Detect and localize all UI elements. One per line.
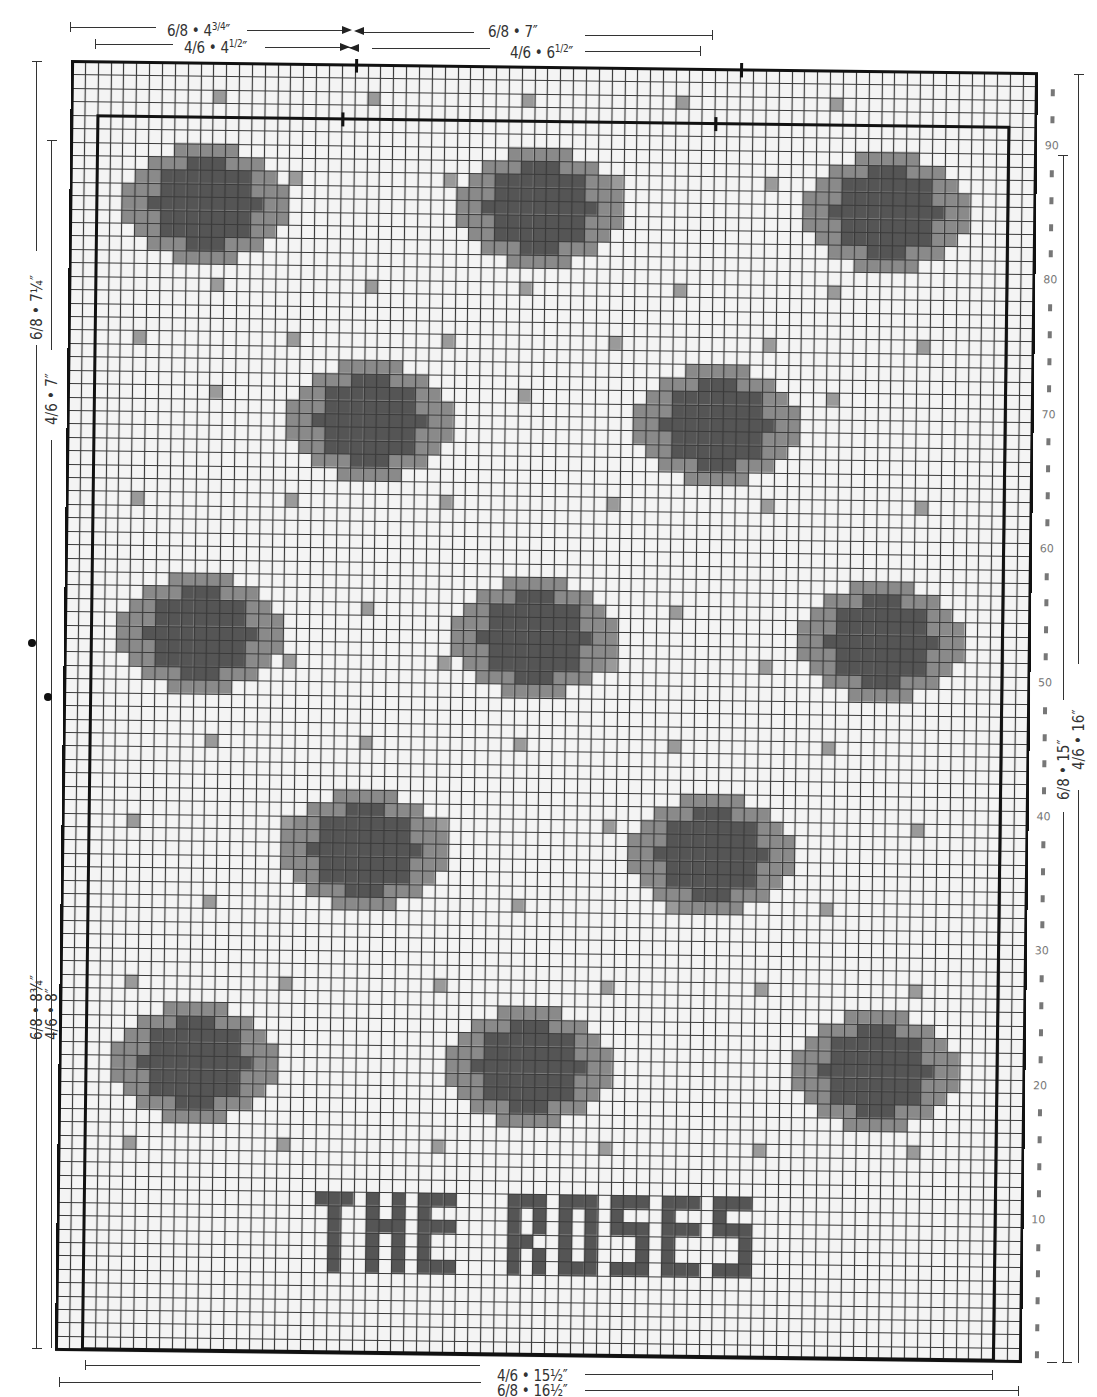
row-axis-dash xyxy=(1042,734,1046,741)
row-axis-dash xyxy=(1050,90,1054,97)
row-number-axis: 908070605040302010 xyxy=(9,0,1097,7)
row-axis-dash xyxy=(1042,761,1046,768)
row-axis-dash xyxy=(1035,1351,1039,1358)
row-axis-dash xyxy=(1039,1002,1043,1009)
row-axis-dash xyxy=(1036,1271,1040,1278)
row-number-label: 70 xyxy=(1041,408,1055,421)
row-number-label: 80 xyxy=(1043,274,1057,287)
row-axis-dash xyxy=(1043,707,1047,714)
frame-center-tick xyxy=(355,59,358,73)
row-axis-dash xyxy=(1037,1136,1041,1143)
row-axis-dash xyxy=(1048,251,1052,258)
row-axis-dash xyxy=(1047,358,1051,365)
frame-center-tick xyxy=(740,63,743,77)
row-number-label: 60 xyxy=(1040,542,1054,555)
row-axis-dash xyxy=(1042,787,1046,794)
stitch-grid xyxy=(56,61,1038,1364)
row-axis-dash xyxy=(1039,1029,1043,1036)
row-axis-dash xyxy=(1038,1056,1042,1063)
row-axis-dash xyxy=(1045,492,1049,499)
row-axis-dash xyxy=(1035,1297,1039,1304)
row-axis-dash xyxy=(1040,895,1044,902)
row-axis-dash xyxy=(1044,626,1048,633)
row-axis-dash xyxy=(1044,573,1048,580)
row-axis-dash xyxy=(1039,975,1043,982)
frame-center-tick xyxy=(714,117,717,131)
row-number-label: 50 xyxy=(1038,676,1052,689)
row-axis-dash xyxy=(1049,224,1053,231)
row-axis-dash xyxy=(1050,117,1054,124)
row-axis-dash xyxy=(1041,868,1045,875)
row-axis-dash xyxy=(1043,653,1047,660)
frame-center-tick xyxy=(341,112,344,126)
row-axis-dash xyxy=(1046,465,1050,472)
graph-chart: 908070605040302010 xyxy=(0,0,1097,1397)
row-axis-dash xyxy=(1049,197,1053,204)
row-axis-dash xyxy=(1045,519,1049,526)
row-number-label: 40 xyxy=(1036,810,1050,823)
row-axis-dash xyxy=(1037,1163,1041,1170)
row-axis-dash xyxy=(1048,304,1052,311)
row-axis-dash xyxy=(1035,1324,1039,1331)
row-axis-dash xyxy=(1040,922,1044,929)
row-number-label: 10 xyxy=(1031,1213,1045,1226)
frame-ticks xyxy=(9,0,1097,7)
row-axis-dash xyxy=(1044,600,1048,607)
row-axis-dash xyxy=(1047,331,1051,338)
row-axis-dash xyxy=(1046,439,1050,446)
row-number-label: 20 xyxy=(1033,1079,1047,1092)
row-axis-dash xyxy=(1049,170,1053,177)
row-axis-dash xyxy=(1037,1190,1041,1197)
row-number-label: 90 xyxy=(1045,139,1059,152)
row-axis-dash xyxy=(1038,1110,1042,1117)
row-number-label: 30 xyxy=(1035,944,1049,957)
row-axis-dash xyxy=(1041,841,1045,848)
row-axis-dash xyxy=(1036,1244,1040,1251)
row-axis-dash xyxy=(1047,385,1051,392)
